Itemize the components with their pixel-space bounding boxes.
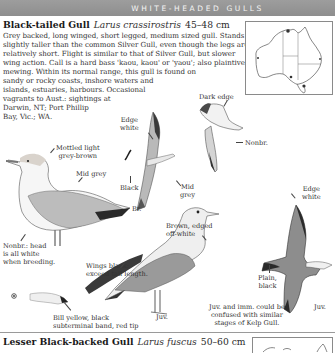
description-line: slightly taller than the common Silver G… bbox=[3, 40, 241, 49]
label-juv-standing: Juv. bbox=[156, 313, 168, 321]
gull-flight-juvenile-illustration bbox=[262, 205, 335, 315]
common-name: Black-tailed Gull bbox=[3, 19, 90, 30]
distribution-map bbox=[245, 21, 333, 95]
description-line: wing action. Call is a hard bass 'kaou, … bbox=[3, 58, 241, 67]
label-wings-black: Wings black: exceed tail length. bbox=[86, 262, 148, 278]
common-name: Lesser Black-backed Gull bbox=[3, 336, 133, 347]
species-title-lesser-black-backed-gull: Lesser Black-backed GullLarus fuscus50–6… bbox=[3, 336, 246, 347]
label-brown-edged: Brown, edged off-white bbox=[166, 222, 213, 238]
label-edge-white-2: Edge white bbox=[302, 185, 321, 201]
label-dark-edge: Dark edge bbox=[199, 93, 234, 101]
description-line: mewing. Within its normal range, this gu… bbox=[3, 67, 241, 76]
leader-line bbox=[269, 265, 270, 273]
description-line: sandy or rocky coasts, inshore waters an… bbox=[3, 76, 241, 85]
australia-map-icon bbox=[246, 22, 334, 96]
label-edge-white-1: Edge white bbox=[120, 116, 139, 132]
label-mid-grey-flight: Mid grey bbox=[180, 183, 195, 199]
size: 45–48 cm bbox=[185, 19, 230, 30]
label-juv-flight: Juv. bbox=[314, 303, 326, 311]
section-divider bbox=[0, 332, 335, 333]
leader-line bbox=[291, 194, 295, 199]
label-black: Black bbox=[120, 184, 139, 192]
label-mottled: Mottled light grey-brown bbox=[56, 144, 100, 160]
label-juv-note: Juv. and imm. could be confused with sim… bbox=[209, 303, 285, 327]
leader-line bbox=[130, 176, 131, 183]
leader-line bbox=[236, 142, 243, 143]
australia-map-icon bbox=[253, 338, 334, 353]
description-line: relatively short. Flight is similar to t… bbox=[3, 49, 241, 58]
species-title-black-tailed-gull: Black-tailed GullLarus crassirostris45–4… bbox=[3, 19, 230, 30]
label-br: Br. bbox=[132, 205, 141, 213]
scientific-name: Larus crassirostris bbox=[94, 19, 181, 30]
description-line: Grey backed, long winged, short legged, … bbox=[3, 31, 241, 40]
label-nonbr-flight: Nonbr. bbox=[245, 139, 268, 147]
gull-flight-illustration-nonbr bbox=[195, 100, 250, 175]
label-plain-black: Plain, black bbox=[258, 274, 277, 290]
label-bill-note: Bill yellow, black subterminal band, red… bbox=[53, 314, 138, 330]
section-title: WHITE-HEADED GULLS bbox=[71, 4, 264, 13]
size: 50–60 cm bbox=[201, 336, 246, 347]
distribution-map-2 bbox=[252, 337, 333, 353]
label-nonbr-head: Nonbr.: head is all white when breeding. bbox=[3, 242, 55, 266]
section-header-bar: WHITE-HEADED GULLS bbox=[0, 0, 335, 16]
scientific-name: Larus fuscus bbox=[137, 336, 196, 347]
